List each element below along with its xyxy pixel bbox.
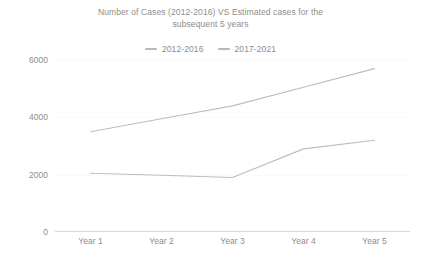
chart-title-line-1: Number of Cases (2012-2016) VS Estimated…: [0, 6, 421, 18]
x-axis-tick-label: Year 4: [268, 236, 339, 246]
legend-item-2012-2016[interactable]: 2012-2016: [145, 44, 204, 54]
legend-item-2017-2021[interactable]: 2017-2021: [218, 44, 277, 54]
chart-title: Number of Cases (2012-2016) VS Estimated…: [0, 6, 421, 30]
legend-label-2012-2016: 2012-2016: [162, 44, 204, 54]
chart-container: Number of Cases (2012-2016) VS Estimated…: [0, 0, 421, 262]
plot-area: 0200040006000: [55, 60, 410, 232]
legend-line-marker-icon: [145, 48, 157, 50]
series-line-2012-2016: [91, 140, 375, 177]
chart-legend: 2012-2016 2017-2021: [0, 44, 421, 54]
chart-title-line-2: subsequent 5 years: [0, 18, 421, 30]
x-axis-labels: Year 1Year 2Year 3Year 4Year 5: [55, 236, 410, 246]
x-axis-tick-label: Year 5: [339, 236, 410, 246]
series-line-2017-2021: [91, 69, 375, 132]
y-axis-tick-label: 2000: [29, 170, 48, 180]
y-axis-tick-label: 4000: [29, 112, 48, 122]
y-axis-tick-label: 0: [43, 227, 48, 237]
series-lines: [55, 60, 410, 232]
legend-line-marker-icon: [218, 48, 230, 50]
legend-label-2017-2021: 2017-2021: [235, 44, 277, 54]
y-axis-tick-label: 6000: [29, 55, 48, 65]
x-axis-tick-label: Year 3: [197, 236, 268, 246]
x-axis-tick-label: Year 2: [126, 236, 197, 246]
x-axis-tick-label: Year 1: [55, 236, 126, 246]
